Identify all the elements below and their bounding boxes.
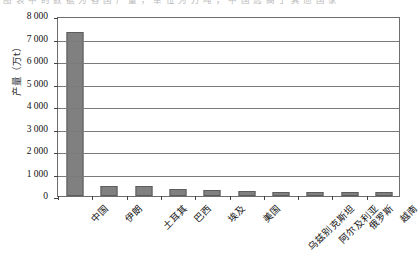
x-axis-tick-labels: 中国伊朗土耳其巴西埃及美国乌兹别克斯坦阿尔及利亚俄罗斯越南 — [57, 199, 400, 266]
cropped-caption-strip: 图 表 中 的 数 据 为 各 国 产 量 ， 单 位 为 万 吨 ， 中 国 … — [0, 0, 410, 7]
gridline — [58, 131, 399, 132]
y-tick-label: 7 000 — [27, 35, 48, 45]
x-tick-label: 伊朗 — [121, 201, 145, 225]
bar-俄罗斯[interactable] — [341, 192, 358, 196]
bar-巴西[interactable] — [170, 189, 187, 196]
bar-阿尔及利亚[interactable] — [307, 192, 324, 196]
y-tick-label: 1 000 — [27, 170, 48, 180]
gridline — [58, 108, 399, 109]
bar-伊朗[interactable] — [101, 186, 118, 196]
y-tick-label: 5 000 — [27, 80, 48, 90]
y-axis-tick-labels: 8 0007 0006 0005 0004 0003 0002 0001 000… — [0, 0, 52, 266]
y-tick-label: 3 000 — [27, 125, 48, 135]
bar-slot — [195, 18, 229, 196]
bar-乌兹别克斯坦[interactable] — [272, 192, 289, 196]
y-tick-mark — [54, 86, 58, 87]
bar-越南[interactable] — [375, 192, 392, 196]
y-tick-label: 0 — [43, 192, 48, 202]
bar-slot — [92, 18, 126, 196]
y-tick-mark — [54, 63, 58, 64]
gridline — [58, 176, 399, 177]
gridline — [58, 63, 399, 64]
bar-series — [58, 18, 399, 196]
bar-美国[interactable] — [238, 191, 255, 196]
plot-area — [57, 17, 400, 197]
bar-slot — [367, 18, 401, 196]
y-tick-label: 2 000 — [27, 147, 48, 157]
x-tick-label: 土耳其 — [159, 201, 190, 232]
bar-埃及[interactable] — [204, 190, 221, 196]
cropped-caption-text: 图 表 中 的 数 据 为 各 国 产 量 ， 单 位 为 万 吨 ， 中 国 … — [3, 0, 410, 4]
y-tick-label: 8 000 — [27, 12, 48, 22]
x-tick-label: 美国 — [258, 201, 282, 225]
y-tick-label: 6 000 — [27, 57, 48, 67]
gridline — [58, 153, 399, 154]
x-tick-label: 越南 — [396, 201, 420, 225]
bar-slot — [127, 18, 161, 196]
bar-中国[interactable] — [67, 32, 84, 196]
gridline — [58, 41, 399, 42]
bar-slot — [298, 18, 332, 196]
bar-slot — [58, 18, 92, 196]
y-tick-mark — [54, 41, 58, 42]
y-tick-mark — [54, 108, 58, 109]
y-tick-mark — [54, 176, 58, 177]
bar-slot — [161, 18, 195, 196]
x-tick-label: 巴西 — [190, 201, 214, 225]
bar-slot — [264, 18, 298, 196]
x-tick-label: 埃及 — [224, 201, 248, 225]
bar-土耳其[interactable] — [135, 186, 152, 196]
bar-slot — [332, 18, 366, 196]
y-tick-label: 4 000 — [27, 102, 48, 112]
y-tick-mark — [54, 18, 58, 19]
y-tick-mark — [54, 153, 58, 154]
x-tick-label: 中国 — [87, 201, 111, 225]
y-tick-mark — [54, 131, 58, 132]
bar-slot — [230, 18, 264, 196]
gridline — [58, 86, 399, 87]
